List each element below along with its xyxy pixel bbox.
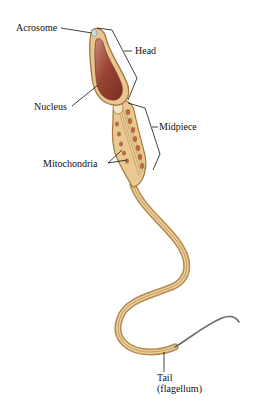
sperm-diagram	[0, 0, 254, 414]
label-nucleus: Nucleus	[34, 101, 67, 112]
label-flagellum: (flagellum)	[157, 383, 202, 394]
flagellum	[118, 185, 239, 352]
nucleus-leader	[72, 85, 98, 106]
acrosome-leader	[61, 28, 92, 33]
label-midpiece: Midpiece	[159, 121, 197, 132]
label-acrosome: Acrosome	[16, 22, 57, 33]
label-tail: Tail	[157, 372, 172, 383]
label-head: Head	[135, 45, 156, 56]
midpiece	[112, 100, 146, 186]
sperm-head	[90, 28, 129, 105]
label-mitochondria: Mitochondria	[43, 158, 97, 169]
